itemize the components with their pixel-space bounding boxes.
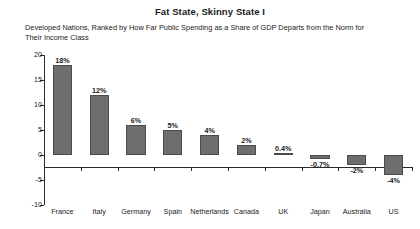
bar [274,153,293,155]
bar-value-label: -2% [338,166,375,175]
bar-value-label: -4% [375,176,412,185]
y-axis-tick-label: -5 [36,175,42,184]
x-axis-tick-mark [44,167,45,171]
chart-title: Fat State, Skinny State I [0,6,420,17]
x-axis-tick-mark [118,167,119,171]
bar [310,155,329,159]
bar-value-label: 0.4% [265,144,302,153]
bar [200,135,219,155]
bar [163,130,182,155]
bar-value-label: 18% [44,56,81,65]
bar [237,145,256,155]
bar [347,155,366,165]
y-axis-tick-label: 20 [34,50,42,59]
bar-value-label: 12% [81,86,118,95]
x-axis-tick-mark [265,167,266,171]
bar-value-label: -0.7% [302,160,339,169]
y-axis-tick-label: 10 [34,100,42,109]
chart-container: Fat State, Skinny State I Developed Nati… [0,0,420,229]
y-axis-line [44,55,45,205]
y-axis-tick-label: 15 [34,75,42,84]
bar [90,95,109,155]
plot-area: 20151050-5-10 18%12%6%5%4%2%0.4%-0.7%-2%… [44,55,412,205]
bar-value-label: 4% [191,126,228,135]
chart-subtitle: Developed Nations, Ranked by How Far Pub… [25,23,370,43]
x-axis-tick-mark [412,167,413,171]
x-axis-tick-mark [81,167,82,171]
x-axis-tick-mark [154,167,155,171]
x-axis-tick-mark [375,167,376,171]
bar-value-label: 6% [118,116,155,125]
bar [126,125,145,155]
bar-value-label: 5% [154,121,191,130]
x-axis-category-label: US [368,207,419,216]
y-axis-tick-label: 5 [38,125,42,134]
x-axis-tick-mark [228,167,229,171]
x-axis-tick-mark [191,167,192,171]
bar [384,155,403,175]
bar [53,65,72,155]
y-axis-tick-label: 0 [38,150,42,159]
bar-value-label: 2% [228,136,265,145]
